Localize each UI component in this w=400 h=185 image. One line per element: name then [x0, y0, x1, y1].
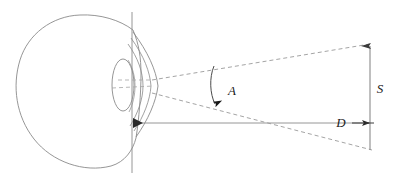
- angle-label: A: [227, 83, 236, 98]
- visual-angle-diagram: A S D: [0, 0, 400, 185]
- internal-axis-dashed: [112, 86, 154, 88]
- angle-arc-with-arrowhead: [211, 66, 215, 104]
- diagram-canvas: A S D: [0, 0, 400, 185]
- stimulus-size-label: S: [377, 81, 384, 96]
- distance-label: D: [335, 115, 346, 130]
- iris-ellipse: [112, 59, 134, 111]
- eye-globe: [16, 15, 141, 168]
- cornea-bulge: [128, 32, 158, 137]
- upper-ray-dashed: [152, 44, 370, 80]
